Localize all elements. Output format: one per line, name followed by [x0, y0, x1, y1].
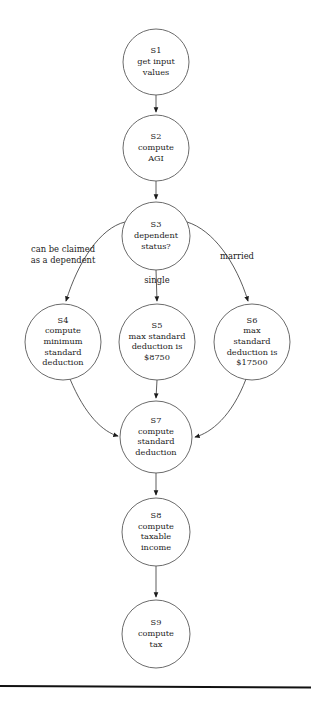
node-label-s1-line-0: S1: [151, 45, 162, 55]
node-label-s5-line-2: deduction is: [132, 341, 183, 351]
node-label-s3-line-1: dependent: [134, 230, 179, 240]
node-s6: S6maxstandarddeduction is$17500: [214, 304, 290, 380]
label-married-line-0: married: [220, 251, 255, 261]
node-label-s6-line-2: standard: [234, 336, 271, 346]
label-single-line-0: single: [144, 275, 169, 285]
node-label-s4-line-1: compute: [45, 325, 81, 335]
node-s9: S9computetax: [122, 600, 190, 668]
node-label-s8-line-1: compute: [138, 521, 174, 531]
edge-s6-to-s7: [195, 379, 246, 437]
node-label-s4-line-3: standard: [45, 347, 82, 357]
node-label-s7-line-2: standard: [138, 436, 175, 446]
node-label-s2-line-1: compute: [138, 142, 174, 152]
node-label-s8-line-0: S8: [151, 510, 162, 520]
node-label-s4-line-2: minimum: [43, 336, 82, 346]
node-label-s8-line-2: taxable: [141, 531, 172, 541]
flowchart-diagram: S1get inputvaluesS2computeAGIS3dependent…: [0, 0, 311, 704]
node-label-s7-line-1: compute: [138, 426, 174, 436]
node-s3: S3dependentstatus?: [122, 202, 190, 270]
label-dependent: can be claimedas a dependent: [31, 244, 96, 265]
label-single: single: [144, 275, 169, 285]
node-label-s6-line-0: S6: [247, 315, 258, 325]
nodes-layer: S1get inputvaluesS2computeAGIS3dependent…: [25, 29, 290, 668]
edge-s4-to-s7: [70, 379, 118, 436]
node-label-s8-line-3: income: [141, 542, 171, 552]
node-label-s1-line-1: get input: [137, 56, 175, 66]
node-label-s9-line-0: S9: [151, 617, 162, 627]
flowchart-canvas: S1get inputvaluesS2computeAGIS3dependent…: [0, 0, 311, 704]
node-label-s3-line-0: S3: [151, 219, 162, 229]
node-s5: S5max standarddeduction is$8750: [119, 304, 195, 380]
label-dependent-line-1: as a dependent: [31, 255, 96, 265]
edge-s5-to-s7: [156, 380, 157, 398]
edge-s3-to-s6: [187, 222, 248, 301]
node-s8: S8computetaxableincome: [122, 498, 190, 566]
node-label-s9-line-1: compute: [138, 628, 174, 638]
footer-divider: [0, 686, 311, 688]
node-label-s2-line-0: S2: [151, 131, 162, 141]
node-label-s5-line-0: S5: [152, 320, 163, 330]
node-s2: S2computeAGI: [123, 115, 189, 181]
label-dependent-line-0: can be claimed: [31, 244, 96, 254]
node-s1: S1get inputvalues: [123, 29, 189, 95]
node-label-s7-line-3: deduction: [135, 447, 177, 457]
label-married: married: [220, 251, 255, 261]
node-s4: S4computeminimumstandarddeduction: [25, 304, 101, 380]
node-label-s1-line-2: values: [142, 67, 169, 77]
node-label-s9-line-2: tax: [150, 639, 163, 649]
node-label-s6-line-3: deduction is: [227, 347, 278, 357]
node-label-s5-line-1: max standard: [129, 331, 186, 341]
node-label-s6-line-4: $17500: [236, 357, 267, 367]
node-label-s3-line-2: status?: [141, 241, 171, 251]
node-label-s4-line-0: S4: [58, 315, 69, 325]
node-label-s5-line-3: $8750: [144, 352, 170, 362]
footer-layer: [0, 686, 311, 688]
node-label-s2-line-2: AGI: [147, 153, 164, 163]
node-label-s7-line-0: S7: [151, 415, 162, 425]
node-s7: S7computestandarddeduction: [120, 401, 192, 473]
node-label-s4-line-4: deduction: [42, 357, 84, 367]
node-label-s6-line-1: max: [243, 325, 261, 335]
